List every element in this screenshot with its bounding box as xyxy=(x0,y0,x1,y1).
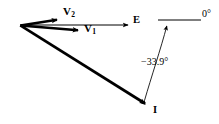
vector-diagram-figure: V2 V1 E I 0° −33.9° xyxy=(0,0,219,124)
vector-label-v1-base: V xyxy=(84,22,92,34)
angle-value-label: −33.9° xyxy=(141,57,168,67)
vector-label-e: E xyxy=(133,15,140,26)
vector-label-v2-base: V xyxy=(63,5,71,17)
vector-diagram-canvas xyxy=(0,0,219,124)
vector-i-arrow xyxy=(20,25,145,103)
vector-label-i: I xyxy=(153,105,157,116)
vector-label-v2-subscript: 2 xyxy=(71,10,75,19)
vector-label-v1: V1 xyxy=(84,23,96,36)
vector-label-v2: V2 xyxy=(63,6,75,19)
zero-degree-label: 0° xyxy=(202,9,211,19)
vector-label-v1-subscript: 1 xyxy=(92,27,96,36)
